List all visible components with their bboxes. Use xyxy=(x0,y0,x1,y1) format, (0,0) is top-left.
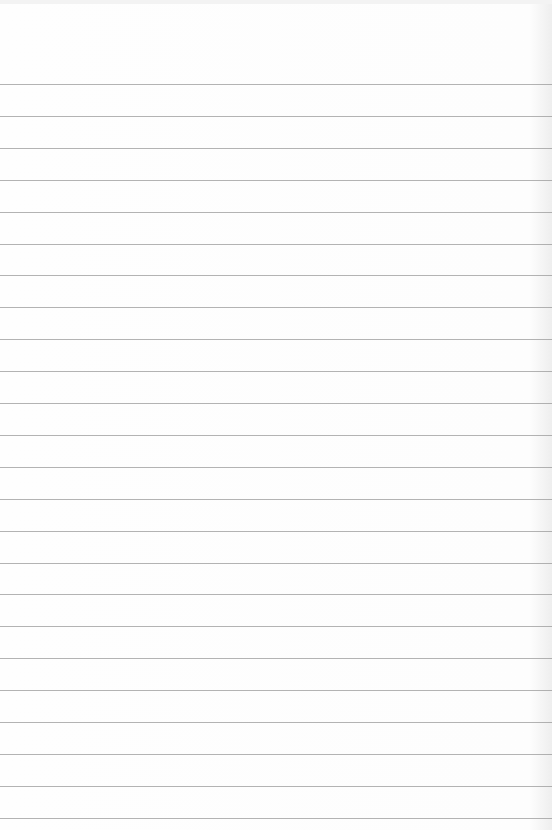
ruled-line xyxy=(0,563,552,564)
ruled-line xyxy=(0,754,552,755)
ruled-line xyxy=(0,531,552,532)
ruled-line xyxy=(0,275,552,276)
ruled-line xyxy=(0,212,552,213)
ruled-line xyxy=(0,244,552,245)
ruled-line xyxy=(0,690,552,691)
ruled-line xyxy=(0,658,552,659)
ruled-line xyxy=(0,594,552,595)
ruled-line xyxy=(0,148,552,149)
ruled-line xyxy=(0,339,552,340)
ruled-line xyxy=(0,371,552,372)
top-edge xyxy=(0,0,552,4)
ruled-line xyxy=(0,467,552,468)
ruled-line xyxy=(0,626,552,627)
ruled-line xyxy=(0,307,552,308)
ruled-line xyxy=(0,499,552,500)
ruled-line xyxy=(0,435,552,436)
lined-paper xyxy=(0,0,552,830)
ruled-line xyxy=(0,722,552,723)
ruled-line xyxy=(0,116,552,117)
ruled-line xyxy=(0,818,552,819)
ruled-line xyxy=(0,84,552,85)
ruled-line xyxy=(0,180,552,181)
ruled-line xyxy=(0,786,552,787)
ruled-line xyxy=(0,403,552,404)
